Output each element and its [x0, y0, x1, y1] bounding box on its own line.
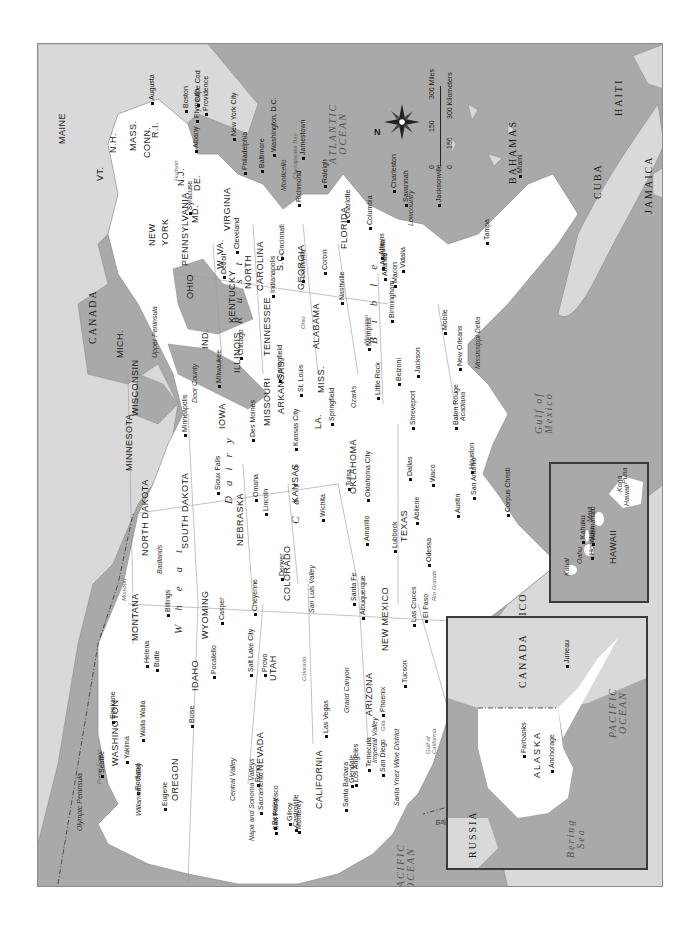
- city-detroit: Detroit: [220, 253, 227, 279]
- city-milwaukee: Milwaukee: [215, 350, 222, 388]
- city-yakima: Yakima: [123, 736, 130, 764]
- state-mass-: MASS.: [129, 120, 138, 151]
- city-sioux-falls: Sioux Falls: [214, 456, 221, 495]
- state-de-: DE.: [193, 174, 202, 191]
- hawaii-islands: [551, 464, 647, 601]
- city-san-antonio: San Antonio: [470, 457, 477, 500]
- city-amarillo: Amarillo: [363, 516, 370, 546]
- city-new-orleans: New Orleans: [456, 326, 463, 371]
- city-minneapolis: Minneapolis: [181, 395, 188, 437]
- city-kahuku: Kahuku: [579, 515, 586, 544]
- state-mich-: MICH.: [116, 330, 125, 358]
- region-mississippi-delta: Mississippi Delta: [474, 317, 481, 369]
- city-shreveport: Shreveport: [409, 391, 416, 430]
- river-ohio: Ohio: [300, 316, 306, 329]
- city-plymouth: Plymouth: [193, 89, 200, 123]
- region-acadiana: Acadiana: [459, 392, 466, 421]
- state-tennessee: TENNESSEE: [263, 297, 272, 356]
- state-new-mexico: NEW MEXICO: [381, 587, 390, 651]
- island-oahu: Oahu: [576, 547, 583, 564]
- city-pocatello: Pocatello: [210, 645, 217, 679]
- alaska-inset: ALASKA Fairbanks Anchorage Juneau RUSSIA…: [446, 616, 648, 870]
- city-little-rock: Little Rock: [374, 362, 381, 400]
- haiti-landmass: [633, 44, 663, 89]
- city-cheyenne: Cheyenne: [251, 579, 258, 616]
- state-alabama: ALABAMA: [312, 303, 321, 349]
- water-bering-sea: BeringSea: [566, 819, 586, 858]
- city-philadelphia: Philadelphia: [241, 132, 248, 175]
- city-waco: Waco: [429, 464, 436, 487]
- state-wyoming: WYOMING: [201, 591, 210, 640]
- city-columbia: Columbia: [366, 195, 373, 230]
- region-lowcountry: Lowcountry: [407, 190, 414, 226]
- country-haiti: HAITI: [614, 79, 624, 116]
- region-san-luis-valley: San Luis Valley: [308, 565, 315, 613]
- label-corn-belt: Corn: [290, 453, 301, 524]
- city-juneau: Juneau: [563, 640, 570, 668]
- state-new: NEW: [148, 224, 157, 247]
- city-las-cruces: Las Cruces: [410, 587, 417, 627]
- region-monticello: Monticello: [280, 159, 287, 191]
- city-los-angeles: Los Angeles: [352, 744, 359, 787]
- city-des-moines: Des Moines: [249, 400, 256, 442]
- city-nashville: Nashville: [338, 272, 345, 305]
- map-frame: N 0 150 300 Miles 0 150 300 Kilometers C…: [37, 43, 663, 887]
- water-pacific-inset: PACIFICOCEAN: [608, 687, 628, 738]
- city-birmingham: Birmingham: [388, 281, 395, 323]
- city-sacramento: Sacramento: [257, 772, 264, 815]
- city-baton-rouge: Baton Rouge: [452, 384, 459, 430]
- state-north: NORTH: [244, 255, 253, 289]
- scale-miles-300: 300 Miles: [428, 69, 435, 99]
- state-wisconsin: WISCONSIN: [131, 359, 140, 416]
- city-las-vegas: Las Vegas: [322, 700, 329, 738]
- state-vt-: VT.: [96, 166, 105, 181]
- label-bible-belt: Bible: [368, 251, 379, 344]
- state-missouri: MISSOURI: [263, 377, 272, 426]
- city-dallas: Dallas: [406, 457, 413, 481]
- state-california: CALIFORNIA: [315, 750, 324, 809]
- water-atlantic: ATLANTICOCEAN: [328, 103, 348, 164]
- city-raleigh: Raleigh: [321, 159, 328, 188]
- region-upper-peninsula: Upper Peninsula: [151, 306, 158, 358]
- city-oklahoma-city: Oklahoma City: [364, 451, 371, 502]
- state-iowa: IOWA: [218, 403, 227, 429]
- region-willamette-valley: Willamette Valley: [135, 763, 142, 816]
- city-charleston: Charleston: [390, 154, 397, 193]
- bahamas-islands: [448, 104, 514, 166]
- city-jamestown: Jamestown: [299, 120, 306, 160]
- region-central-valley: Central Valley: [229, 758, 236, 801]
- city-richmond: Richmond: [295, 170, 302, 207]
- state-carolina: CAROLINA: [256, 241, 265, 291]
- city-san-francisco: San Francisco: [272, 785, 279, 835]
- city-lincoln: Lincoln: [262, 489, 269, 516]
- city-santa-barbara: Santa Barbara: [342, 762, 349, 812]
- jamaica-landmass: [653, 168, 663, 198]
- city-boston: Boston: [182, 86, 189, 113]
- country-canada-inset: CANADA: [518, 633, 528, 688]
- city-corpus-christi: Corpus Christi: [504, 468, 511, 517]
- city-fairbanks: Fairbanks: [520, 722, 527, 758]
- state-minnesota: MINNESOTA: [125, 414, 134, 471]
- scale-bar: [440, 86, 441, 166]
- scale-km-150: 150: [446, 137, 453, 149]
- city-atlanta: Atlanta: [381, 254, 388, 281]
- city-chicago: Chicago: [237, 329, 244, 360]
- city-austin: Austin: [454, 494, 461, 518]
- city-provo: Provo: [261, 654, 268, 677]
- place-puna: Puna: [621, 468, 628, 484]
- region-ozarks: Ozarks: [350, 386, 357, 408]
- city-seattle: Seattle: [98, 751, 105, 778]
- city-jacksonville: Jacksonville: [435, 164, 442, 207]
- city-belzoni: Belzoni: [395, 358, 402, 386]
- state-miss-: MISS.: [317, 366, 326, 393]
- city-walla-walla: Walla Walla: [139, 701, 146, 742]
- state-oregon: OREGON: [171, 758, 180, 801]
- scale-miles-0: 0: [428, 165, 435, 169]
- state-ind-: IND.: [201, 329, 210, 349]
- city-mobile: Mobile: [441, 309, 448, 335]
- island-kauai: Kauai: [563, 558, 570, 576]
- river-hudson: Hudson: [173, 160, 179, 181]
- scale-km-300: 300 Kilometers: [446, 72, 453, 119]
- compass-north-label: N: [374, 128, 381, 137]
- city-salt-lake-city: Salt Lake City: [247, 629, 254, 677]
